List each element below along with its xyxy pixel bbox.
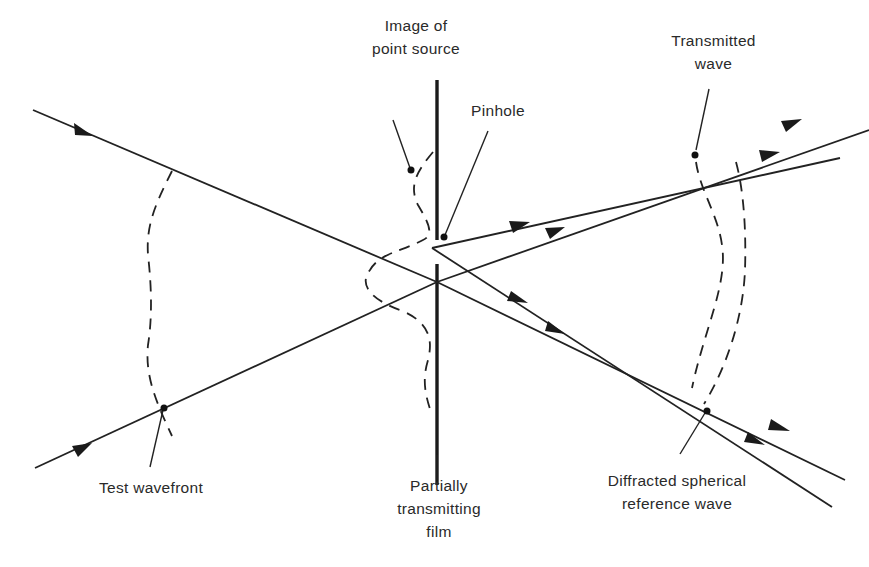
test-wavefront-curve [147,171,172,436]
dot-marker [161,405,168,412]
leader-diffracted-reference-wave [680,413,705,454]
label-line: Pinhole [458,99,538,122]
point-source-image-curve [366,152,433,415]
leader-image-of-point-source [393,120,410,168]
leader-pinhole [445,131,488,235]
dot-marker [441,234,448,241]
label-line: Image of [356,14,476,37]
reference-wavefront-curve [704,162,745,404]
label-transmitted-wave: Transmitted wave [656,29,771,75]
label-line: Diffracted spherical [593,469,761,492]
arrow-icon [768,419,790,431]
arrow-icon [545,321,565,334]
label-line: Transmitted [656,29,771,52]
label-line: Partially [384,474,494,497]
dot-marker [408,167,415,174]
label-image-of-point-source: Image of point source [356,14,476,60]
diffracted-ray-upper [432,158,840,248]
transmitted-ray-upper [437,130,869,282]
leader-transmitted-wave [696,89,709,150]
dot-marker [692,152,699,159]
label-diffracted-spherical-reference-wave: Diffracted spherical reference wave [593,469,761,515]
label-line: transmitting [384,497,494,520]
transmitted-ray-lower [437,282,845,480]
arrow-icon [759,150,780,162]
label-line: wave [656,52,771,75]
upper-incoming-ray [33,110,437,282]
label-line: point source [356,37,476,60]
label-test-wavefront: Test wavefront [86,476,216,499]
label-partially-transmitting-film: Partially transmitting film [384,474,494,543]
arrow-icon [507,291,528,303]
dot-marker [704,408,711,415]
label-line: film [384,520,494,543]
arrow-icon [744,432,765,445]
label-line: reference wave [593,492,761,515]
label-line: Test wavefront [86,476,216,499]
arrow-icon [74,123,93,136]
arrow-icon [781,119,802,132]
arrow-icon [72,443,92,457]
leader-test-wavefront [150,410,163,467]
point-diffraction-interferometer-diagram: Image of point source Pinhole Transmitte… [0,0,869,567]
transmitted-wavefront-curve [692,162,723,388]
label-pinhole: Pinhole [458,99,538,122]
lower-incoming-ray [35,282,437,468]
